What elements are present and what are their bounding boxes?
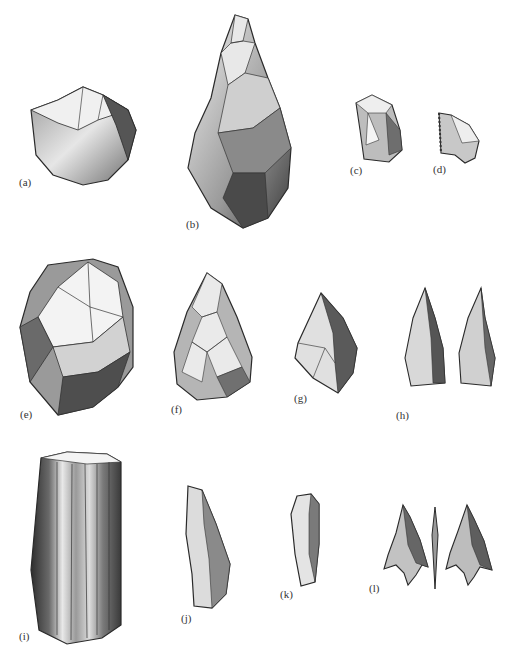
artifact-j-blade: [184, 484, 232, 610]
label-b: (b): [186, 219, 199, 230]
artifact-d-small-flake: [437, 113, 481, 163]
artifact-e-prepared-core: [18, 257, 136, 417]
artifact-a-pebble-chopper: [28, 85, 140, 190]
label-h: (h): [396, 410, 409, 421]
label-d: (d): [433, 164, 446, 175]
artifact-b-hand-axe: [183, 13, 295, 228]
label-c: (c): [350, 165, 362, 176]
label-i: (i): [19, 631, 29, 642]
artifact-l-barbed-arrowhead: [380, 505, 494, 589]
artifact-h-pair-of-points: [403, 288, 497, 388]
label-g: (g): [294, 393, 307, 404]
artifact-f-bifacial-point: [172, 272, 254, 400]
artifact-k-end-scraper: [289, 494, 321, 586]
label-k: (k): [280, 589, 293, 600]
artifact-g-retouched-point: [293, 293, 359, 393]
label-l: (l): [369, 583, 379, 594]
artifact-c-flake-tool: [354, 95, 412, 163]
artifact-i-blade-core: [27, 450, 123, 644]
label-f: (f): [171, 404, 182, 415]
label-e: (e): [20, 409, 32, 420]
label-j: (j): [181, 613, 191, 624]
label-a: (a): [19, 177, 31, 188]
